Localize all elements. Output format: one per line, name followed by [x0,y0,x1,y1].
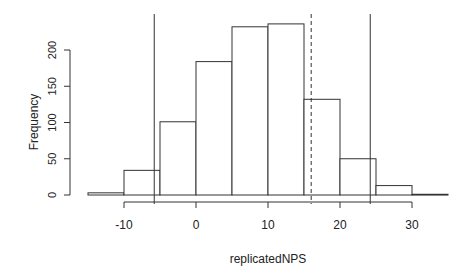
histogram-bar [160,122,196,195]
histogram-bar [88,193,124,195]
histogram-bar [196,62,232,195]
y-axis: 050100150200 [46,41,70,198]
y-tick-label: 0 [46,192,58,198]
histogram-bar [268,24,304,195]
histogram-bar [304,99,340,195]
x-axis: -100102030 [115,202,419,232]
x-tick-label: 20 [333,218,347,232]
histogram-chart: 050100150200 -100102030 Frequency replic… [0,0,464,280]
histogram-bar [412,194,448,195]
y-tick-label: 150 [46,77,58,95]
histogram-bars [88,24,448,195]
y-axis-label: Frequency [27,94,41,151]
x-tick-label: 10 [261,218,275,232]
y-tick-label: 100 [46,113,58,131]
x-tick-label: 30 [405,218,419,232]
y-tick-label: 200 [46,41,58,59]
x-tick-label: 0 [193,218,200,232]
histogram-bar [376,186,412,195]
y-tick-label: 50 [46,153,58,165]
x-tick-label: -10 [115,218,133,232]
x-axis-label: replicatedNPS [230,252,307,266]
histogram-bar [232,27,268,195]
